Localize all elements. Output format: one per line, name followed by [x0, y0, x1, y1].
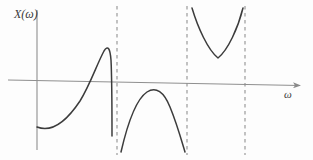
- x-axis-label: ω: [284, 89, 292, 100]
- curve-branch-right: [192, 8, 243, 58]
- figure-container: X(ω) ω: [0, 0, 313, 160]
- asymptote-group: [117, 6, 245, 155]
- plot-canvas: [0, 0, 313, 160]
- y-axis-label: X(ω): [14, 8, 38, 20]
- curve-branch-left: [37, 48, 112, 136]
- curve-group: [37, 8, 243, 152]
- curve-branch-middle: [121, 90, 185, 152]
- x-axis-line: [8, 80, 300, 86]
- axis-group: [8, 10, 300, 150]
